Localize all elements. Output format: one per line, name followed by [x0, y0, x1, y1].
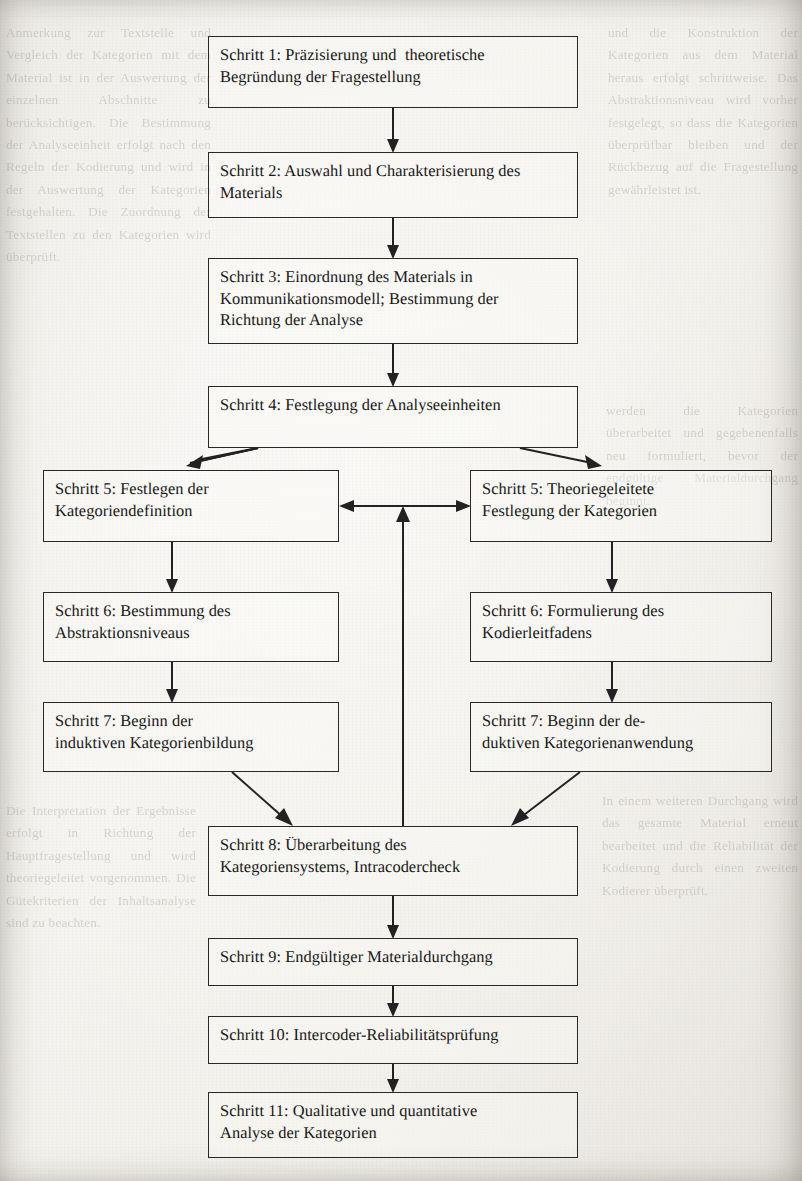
node-line: Begründung der Fragestellung [220, 66, 577, 88]
node-line: Kategoriendefinition [55, 500, 338, 522]
flow-node-schritt-1: Schritt 1: Präzisierung und theoretische… [208, 36, 578, 108]
node-line: Schritt 7: Beginn der de- [482, 710, 771, 732]
node-line: Kategoriensystems, Intracodercheck [220, 856, 577, 878]
node-line: Richtung der Analyse [220, 309, 577, 331]
node-line: Schritt 9: Endgültiger Materialdurchgang [220, 946, 577, 968]
flow-node-schritt-5-links: Schritt 5: Festlegen der Kategoriendefin… [43, 470, 339, 542]
node-line: Schritt 8: Überarbeitung des [220, 834, 577, 856]
node-line: Schritt 7: Beginn der [55, 710, 338, 732]
node-line: Schritt 11: Qualitative und quantitative [220, 1100, 577, 1122]
node-line: Schritt 10: Intercoder-Reliabilitätsprüf… [220, 1024, 577, 1046]
node-line: Analyse der Kategorien [220, 1122, 577, 1144]
node-line: Schritt 6: Formulierung des [482, 600, 771, 622]
node-line: Schritt 3: Einordnung des Materials in [220, 266, 577, 288]
flow-node-schritt-10: Schritt 10: Intercoder-Reliabilitätsprüf… [208, 1016, 578, 1064]
flow-node-schritt-7-links: Schritt 7: Beginn der induktiven Kategor… [43, 702, 339, 772]
flow-node-schritt-4: Schritt 4: Festlegung der Analyseeinheit… [208, 386, 578, 448]
node-line: Schritt 5: Festlegen der [55, 478, 338, 500]
node-line: Schritt 1: Präzisierung und theoretische [220, 44, 577, 66]
flowchart: Schritt 1: Präzisierung und theoretische… [0, 0, 802, 1181]
node-line: duktiven Kategorienanwendung [482, 732, 771, 754]
flow-node-schritt-11: Schritt 11: Qualitative und quantitative… [208, 1092, 578, 1158]
scanned-page: Anmerkung zur Textstelle und Vergleich d… [0, 0, 802, 1181]
node-line: Kommunikationsmodell; Bestimmung der [220, 288, 577, 310]
node-line: Materials [220, 182, 577, 204]
flow-node-schritt-8: Schritt 8: Überarbeitung des Kategoriens… [208, 826, 578, 896]
flow-node-schritt-3: Schritt 3: Einordnung des Materials in K… [208, 258, 578, 344]
node-line: Abstraktionsniveaus [55, 622, 338, 644]
flow-node-schritt-7-rechts: Schritt 7: Beginn der de- duktiven Kateg… [470, 702, 772, 772]
flow-node-schritt-9: Schritt 9: Endgültiger Materialdurchgang [208, 938, 578, 986]
node-line: Schritt 5: Theoriegeleitete [482, 478, 771, 500]
node-line: Schritt 2: Auswahl und Charakterisierung… [220, 160, 577, 182]
flow-node-schritt-6-rechts: Schritt 6: Formulierung des Kodierleitfa… [470, 592, 772, 662]
node-line: Schritt 4: Festlegung der Analyseeinheit… [220, 394, 577, 416]
node-line: induktiven Kategorienbildung [55, 732, 338, 754]
flow-node-schritt-5-rechts: Schritt 5: Theoriegeleitete Festlegung d… [470, 470, 772, 542]
node-line: Kodierleitfadens [482, 622, 771, 644]
node-line: Festlegung der Kategorien [482, 500, 771, 522]
flow-node-schritt-2: Schritt 2: Auswahl und Charakterisierung… [208, 152, 578, 218]
node-line: Schritt 6: Bestimmung des [55, 600, 338, 622]
flow-node-schritt-6-links: Schritt 6: Bestimmung des Abstraktionsni… [43, 592, 339, 662]
